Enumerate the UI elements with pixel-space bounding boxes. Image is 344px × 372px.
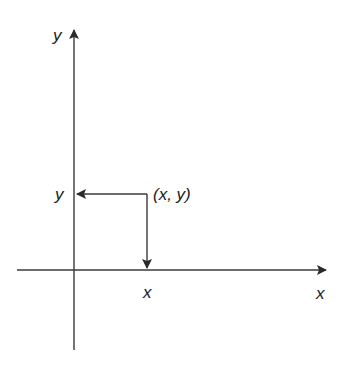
coordinate-diagram: y x (x, y) y x <box>0 0 344 372</box>
y-axis-label: y <box>52 26 63 45</box>
x-projection-label: x <box>142 283 152 302</box>
point-label: (x, y) <box>153 185 191 204</box>
y-projection-label: y <box>54 185 65 204</box>
x-axis-label: x <box>315 284 325 303</box>
